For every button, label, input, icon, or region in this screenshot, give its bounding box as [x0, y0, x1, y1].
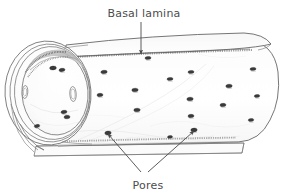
- pore-cross-section: [22, 85, 28, 98]
- pore: [132, 88, 139, 92]
- pores-label: Pores: [133, 179, 164, 192]
- pore: [188, 70, 194, 74]
- pore: [188, 114, 194, 118]
- pore: [97, 93, 103, 97]
- pore: [167, 135, 172, 138]
- pore: [134, 108, 141, 112]
- figure-root: Basal lamina Pores: [0, 0, 288, 196]
- pore: [220, 103, 226, 107]
- pore: [145, 56, 151, 60]
- pore: [250, 67, 256, 71]
- fenestrated-capillary-diagram: Basal lamina Pores: [0, 0, 288, 196]
- basal-lamina-label: Basal lamina: [108, 7, 181, 20]
- pore: [248, 118, 254, 121]
- pore: [254, 94, 260, 97]
- pore: [167, 77, 173, 81]
